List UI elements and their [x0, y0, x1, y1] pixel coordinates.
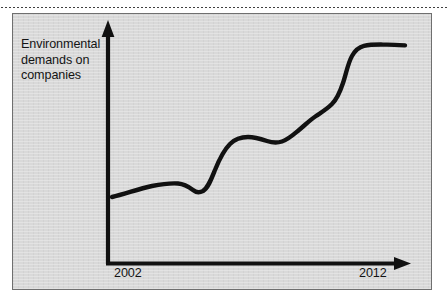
dotted-rule-divider: [0, 6, 448, 9]
y-axis-label: Environmental demands on companies: [21, 37, 109, 84]
page-canvas: Environmental demands on companies 2002 …: [0, 0, 448, 301]
trend-curve: [112, 45, 405, 197]
x-tick-label-end: 2012: [359, 266, 387, 280]
figure-frame: Environmental demands on companies 2002 …: [12, 13, 432, 290]
x-tick-label-start: 2002: [114, 266, 142, 280]
